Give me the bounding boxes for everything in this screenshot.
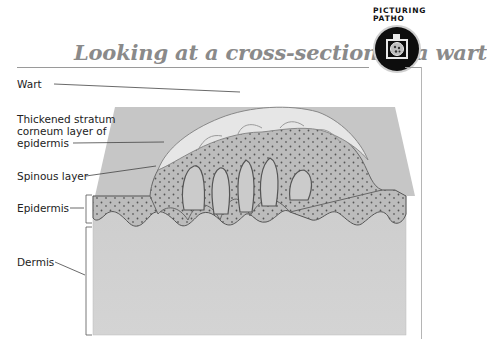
leader-line-dermis bbox=[55, 262, 85, 275]
label-stratum-line-3: epidermis bbox=[17, 137, 69, 149]
label-spinous-layer: Spinous layer bbox=[17, 170, 88, 182]
dermis-bracket bbox=[86, 227, 92, 335]
label-stratum-line-1: Thickened stratum bbox=[17, 113, 115, 125]
label-wart: Wart bbox=[17, 78, 42, 90]
label-stratum-line-2: corneum layer of bbox=[17, 125, 106, 137]
dermal-papilla bbox=[212, 168, 230, 214]
epidermis-bracket bbox=[86, 195, 92, 223]
label-epidermis: Epidermis bbox=[17, 202, 69, 214]
label-dermis: Dermis bbox=[17, 256, 54, 268]
leader-line-wart bbox=[54, 84, 240, 92]
